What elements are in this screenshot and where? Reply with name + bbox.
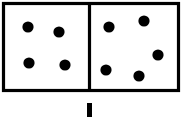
pip (152, 49, 163, 60)
pip (100, 64, 111, 75)
domino-diagram (0, 0, 183, 119)
domino-figure-canvas (0, 0, 183, 119)
pip (103, 21, 114, 32)
pip (53, 26, 64, 37)
pip (138, 15, 149, 26)
center-tick-mark (87, 103, 92, 117)
pip (133, 70, 144, 81)
pip (23, 57, 34, 68)
pip (22, 21, 33, 32)
pip (59, 59, 70, 70)
